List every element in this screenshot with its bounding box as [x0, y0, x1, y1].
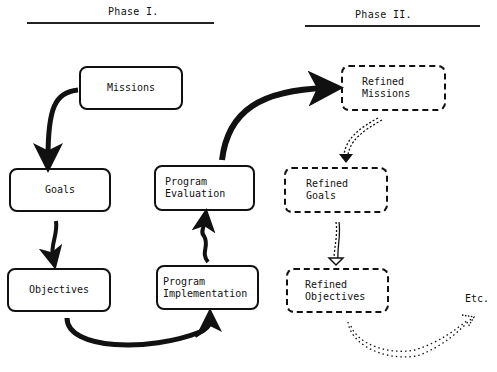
box-objectives: Objectives [7, 268, 111, 312]
arrow-implementation-to-evaluation [202, 220, 208, 262]
arrow-refined-objectives-to-etc [348, 315, 474, 357]
box-refined-goals-label: Refined Goals [306, 178, 348, 202]
box-refined-missions: Refined Missions [341, 65, 446, 111]
box-missions-label: Missions [107, 82, 155, 94]
arrow-missions-to-goals [48, 90, 78, 158]
box-program-implementation: Program Implementation [156, 265, 259, 310]
arrow-goals-to-objectives [52, 221, 56, 258]
arrow-refined-missions-to-refined-goals [339, 118, 382, 163]
box-refined-goals: Refined Goals [284, 167, 388, 213]
arrow-refined-goals-to-refined-objectives [329, 222, 343, 265]
box-program-evaluation: Program Evaluation [154, 165, 255, 211]
box-objectives-label: Objectives [29, 284, 89, 296]
arrow-objectives-to-implementation [67, 318, 210, 345]
box-refined-objectives: Refined Objectives [286, 268, 389, 313]
arrow-evaluation-to-refined-missions [222, 88, 326, 160]
box-goals: Goals [9, 168, 111, 212]
box-refined-missions-label: Refined Missions [362, 76, 410, 100]
box-refined-objectives-label: Refined Objectives [305, 279, 365, 303]
box-goals-label: Goals [45, 184, 75, 196]
box-program-evaluation-label: Program Evaluation [165, 176, 225, 200]
box-missions: Missions [79, 66, 183, 110]
box-program-implementation-label: Program Implementation [163, 276, 247, 300]
continuation-label: Etc. [465, 293, 489, 304]
